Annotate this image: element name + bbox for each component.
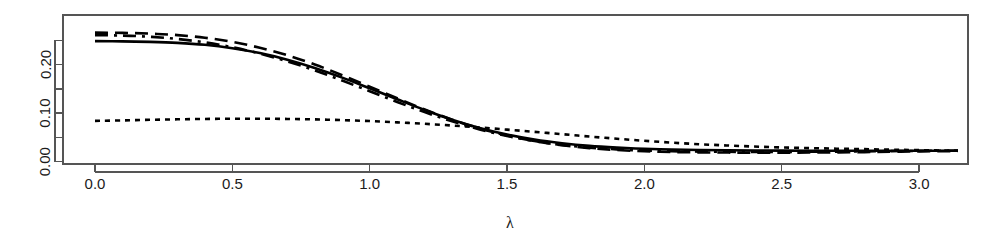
x-tick-label-3: 1.5 <box>497 175 518 192</box>
x-tick-label-5: 2.5 <box>771 175 792 192</box>
chart-figure: 0.000.100.20 0.00.51.01.52.02.53.0 λ <box>0 0 994 246</box>
chart-background <box>0 0 994 246</box>
x-tick-label-4: 2.0 <box>634 175 655 192</box>
x-tick-label-2: 1.0 <box>359 175 380 192</box>
y-tick-label-0: 0.00 <box>37 147 54 176</box>
x-tick-label-0: 0.0 <box>85 175 106 192</box>
x-tick-label-6: 3.0 <box>909 175 930 192</box>
line-chart: 0.000.100.20 0.00.51.01.52.02.53.0 λ <box>0 0 994 246</box>
x-axis-title: λ <box>506 214 514 231</box>
x-tick-label-1: 0.5 <box>222 175 243 192</box>
y-tick-label-4: 0.20 <box>37 50 54 79</box>
y-tick-label-2: 0.10 <box>37 98 54 127</box>
